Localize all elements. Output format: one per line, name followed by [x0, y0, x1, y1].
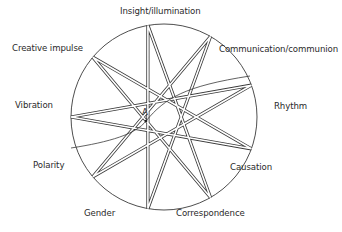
label-insight-illumination: Insight/illumination — [120, 7, 201, 16]
point-a-dot — [145, 120, 148, 123]
label-gender: Gender — [84, 209, 115, 218]
label-creative-impulse: Creative impulse — [12, 44, 83, 53]
label-communication-communion: Communication/communion — [219, 45, 338, 54]
label-causation: Causation — [230, 163, 272, 172]
label-rhythm: Rhythm — [274, 102, 307, 111]
label-vibration: Vibration — [15, 101, 53, 110]
label-polarity: Polarity — [33, 161, 64, 170]
label-correspondence: Correspondence — [176, 209, 245, 218]
point-a-label: A — [142, 108, 148, 117]
enneagram-diagram — [0, 0, 342, 232]
